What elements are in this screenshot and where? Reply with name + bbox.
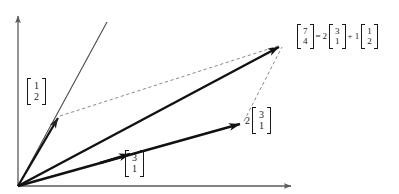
matrix-column: 3 1 [256, 108, 267, 133]
matrix-bracket-3-1: 3 1 [252, 107, 271, 134]
axes-group [18, 16, 291, 186]
vector-linear-combination-figure: 1 2 3 1 2 3 1 7 4 = [0, 0, 399, 194]
matrix-entry-top: 3 [259, 110, 264, 120]
vector-7-4-resultant [18, 47, 279, 186]
coefficient-first-term: 2 [322, 32, 329, 41]
matrix-bracket-1-2: 1 2 [27, 78, 46, 105]
matrix-column: 3 1 [332, 25, 343, 48]
matrix-entry-top: 7 [303, 27, 308, 36]
matrix-bracket-3-1: 3 1 [125, 150, 144, 177]
matrix-entry-bottom: 1 [259, 121, 264, 131]
matrix-column: 1 2 [364, 25, 375, 48]
coefficient-second-term: 1 [354, 32, 361, 41]
matrix-entry-top: 3 [132, 153, 137, 163]
matrix-column: 3 1 [129, 151, 140, 176]
matrix-entry-bottom: 2 [34, 92, 39, 102]
matrix-bracket-1-2: 1 2 [361, 24, 378, 49]
vectors-group [18, 47, 279, 186]
vector-label-2-times-3-1: 2 3 1 [244, 107, 272, 134]
matrix-column: 1 2 [31, 79, 42, 104]
matrix-entry-bottom: 2 [367, 37, 372, 46]
matrix-bracket-7-4: 7 4 [297, 24, 314, 49]
scalar-coefficient: 2 [244, 116, 251, 126]
matrix-entry-bottom: 1 [132, 164, 137, 174]
matrix-column: 7 4 [300, 25, 311, 48]
matrix-entry-bottom: 1 [335, 37, 340, 46]
matrix-entry-top: 1 [367, 27, 372, 36]
equals-sign: = [315, 32, 322, 41]
plus-sign: + [347, 32, 354, 41]
vector-label-3-1: 3 1 [124, 150, 145, 177]
vector-label-1-2: 1 2 [26, 78, 47, 105]
matrix-bracket-3-1: 3 1 [329, 24, 346, 49]
linear-combination-equation: 7 4 = 2 3 1 + 1 1 2 [296, 24, 379, 49]
matrix-entry-top: 1 [34, 81, 39, 91]
matrix-entry-bottom: 4 [303, 37, 308, 46]
matrix-entry-top: 3 [335, 27, 340, 36]
